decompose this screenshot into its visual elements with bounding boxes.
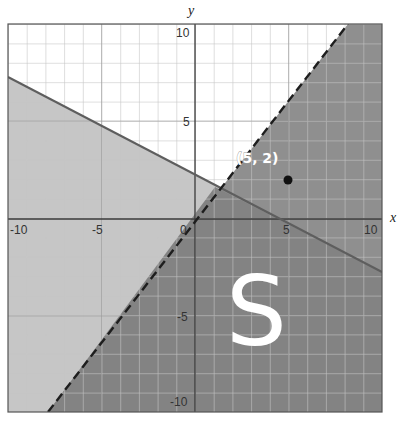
x-tick-label: 5 bbox=[283, 223, 290, 237]
y-tick-label: 5 bbox=[183, 115, 190, 129]
y-axis-label: y bbox=[186, 3, 195, 18]
data-point bbox=[284, 176, 293, 185]
inequality-graph: -10 -5 0 5 10 10 5 -5 -10 y x (5, 2) S bbox=[0, 0, 405, 425]
region-label-s: S bbox=[226, 256, 287, 368]
x-tick-label: 10 bbox=[364, 223, 378, 237]
x-tick-label: -5 bbox=[92, 223, 103, 237]
x-tick-label: 0 bbox=[180, 223, 187, 237]
x-axis-label: x bbox=[389, 210, 397, 225]
x-tick-label: -10 bbox=[10, 223, 28, 237]
y-tick-label: -10 bbox=[170, 395, 188, 409]
y-tick-label: -5 bbox=[177, 310, 188, 324]
point-label: (5, 2) bbox=[236, 150, 278, 166]
y-tick-label: 10 bbox=[176, 26, 190, 40]
